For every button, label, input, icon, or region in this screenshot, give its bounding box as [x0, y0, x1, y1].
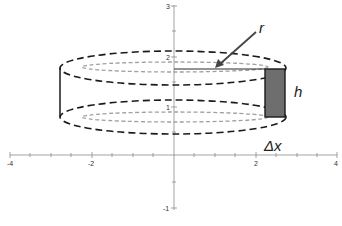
x-tick-label: 4	[334, 160, 338, 167]
outer-ellipses	[60, 51, 286, 134]
outer-top-ellipse	[60, 51, 286, 85]
x-tick-label: -4	[7, 160, 13, 167]
inner-ellipses	[82, 62, 268, 122]
arrow-head-icon	[215, 59, 224, 68]
outer-bottom-ellipse	[60, 100, 286, 134]
y-tick-label: 3	[166, 3, 170, 10]
x-tick-label: 2	[254, 160, 258, 167]
y-tick-label: -1	[163, 205, 169, 212]
y-tick-label: 1	[166, 104, 170, 111]
axes	[10, 5, 337, 210]
shell-rectangle	[265, 69, 285, 117]
inner-top-ellipse	[82, 62, 268, 72]
radius-label: r	[259, 19, 265, 36]
thickness-label: Δx	[263, 137, 282, 154]
y-tick-label: 2	[166, 54, 170, 61]
x-tick-label: -2	[88, 160, 94, 167]
shell-diagram: -4 -2 2 4 3 2 1 -1 r h Δx	[0, 0, 342, 226]
height-label: h	[294, 83, 302, 100]
inner-bottom-ellipse	[82, 112, 268, 122]
